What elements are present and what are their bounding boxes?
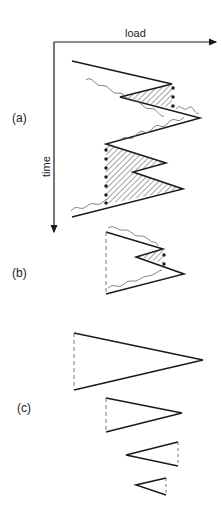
panel-c [74,333,203,495]
cycle-triangle-4 [136,478,166,495]
time-axis-label: time [40,156,52,177]
load-axis-label: load [125,27,146,39]
wavy-line [108,270,162,288]
panel-label-b: (b) [12,266,27,280]
load-history-line [106,232,184,294]
panel-b [106,227,184,295]
load-history-diagram: load time (a) (b) (c) [0,0,222,525]
panel-label-a: (a) [12,111,27,125]
wavy-line [120,117,184,140]
hatched-cycle-large [106,144,183,204]
axes: load time [40,27,216,232]
cycle-triangle-1 [74,333,203,390]
cycle-triangle-3 [126,442,178,466]
panel-a [71,61,200,217]
cycle-triangle-2 [106,398,182,432]
panel-label-c: (c) [17,401,31,415]
wavy-line [108,227,158,247]
